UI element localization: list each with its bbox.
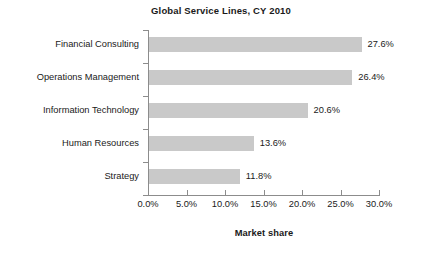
y-axis-tick — [143, 162, 148, 163]
x-axis-tick — [379, 190, 380, 196]
bar-row: Operations Management26.4% — [0, 63, 442, 96]
bar-chart-figure: Global Service Lines, CY 2010 Financial … — [0, 0, 442, 253]
y-axis-tick — [143, 129, 148, 130]
category-label: Financial Consulting — [0, 39, 139, 49]
bar-row: Financial Consulting27.6% — [0, 30, 442, 63]
bar-value-label: 26.4% — [358, 72, 384, 82]
x-axis-tick-label: 30.0% — [349, 199, 409, 209]
y-axis-tick — [143, 30, 148, 31]
y-axis-tick — [143, 96, 148, 97]
bar — [149, 103, 308, 118]
x-axis-tick — [302, 190, 303, 196]
category-label: Human Resources — [0, 138, 139, 148]
x-axis-title: Market share — [148, 228, 380, 238]
bar — [149, 136, 254, 151]
bar — [149, 70, 352, 85]
x-axis-tick — [148, 190, 149, 196]
x-axis-tick — [225, 190, 226, 196]
y-axis-tick — [143, 63, 148, 64]
bar — [149, 169, 240, 184]
bar-row: Strategy11.8% — [0, 162, 442, 195]
bar-value-label: 20.6% — [314, 105, 340, 115]
bar — [149, 37, 362, 52]
category-label: Information Technology — [0, 105, 139, 115]
x-axis-tick — [341, 190, 342, 196]
x-axis-tick — [187, 190, 188, 196]
bar-value-label: 11.8% — [246, 171, 272, 181]
bar-value-label: 13.6% — [260, 138, 286, 148]
bar-value-label: 27.6% — [368, 39, 394, 49]
bar-row: Information Technology20.6% — [0, 96, 442, 129]
x-axis-tick — [264, 190, 265, 196]
chart-title: Global Service Lines, CY 2010 — [0, 5, 442, 16]
category-label: Strategy — [0, 171, 139, 181]
category-label: Operations Management — [0, 72, 139, 82]
bar-row: Human Resources13.6% — [0, 129, 442, 162]
